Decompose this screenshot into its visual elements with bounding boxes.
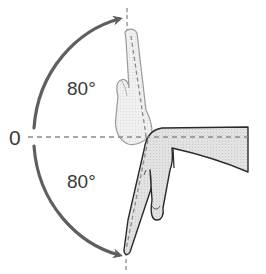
wrist-rom-diagram: 0 80° 80° [0,0,266,274]
raised-hand-ghost [116,29,153,144]
diagram-canvas [0,0,266,274]
lower-angle-label: 80° [67,172,96,191]
upper-angle-label: 80° [67,79,96,98]
zero-label: 0 [9,127,21,148]
upper-arc-arrow [34,19,119,128]
lower-arc-arrow [34,146,119,255]
forearm-and-flexed-hand [124,127,248,254]
